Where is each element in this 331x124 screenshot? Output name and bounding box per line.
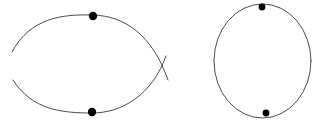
canvas-background — [0, 0, 331, 124]
circle-bottom-point-dot — [263, 110, 270, 117]
lens-top-vertex-dot — [89, 12, 97, 20]
lens-bottom-vertex-dot — [88, 108, 96, 116]
circle-top-point-dot — [259, 4, 266, 11]
geometry-figure-canvas — [0, 0, 331, 124]
